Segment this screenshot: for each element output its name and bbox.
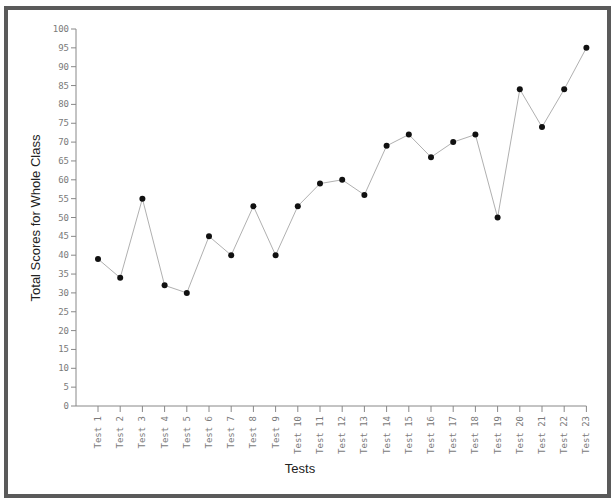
x-tick-label: Test 6 [204,416,214,449]
x-tick-label: Test 7 [226,416,236,449]
y-tick-label: 60 [58,175,69,185]
y-tick-label: 5 [64,382,69,392]
data-point [428,154,434,160]
data-point [583,45,589,51]
data-point [117,275,123,281]
x-tick-label: Test 14 [382,416,392,454]
y-tick-label: 10 [58,363,69,373]
data-point [139,196,145,202]
x-tick-label: Test 10 [293,416,303,454]
x-tick-label: Test 1 [93,416,103,449]
data-point [561,86,567,92]
y-tick-label: 65 [58,156,69,166]
data-point [317,181,323,187]
y-tick-label: 75 [58,118,69,128]
y-tick-label: 70 [58,137,69,147]
y-tick-label: 0 [64,401,69,411]
x-tick-label: Test 15 [404,416,414,454]
y-tick-label: 55 [58,194,69,204]
x-tick-label: Test 12 [337,416,347,454]
data-point [273,252,279,258]
y-tick-label: 80 [58,99,69,109]
data-point [95,256,101,262]
y-tick-label: 100 [53,24,69,34]
x-tick-label: Test 21 [537,416,547,454]
y-tick-label: 45 [58,231,69,241]
data-point [450,139,456,145]
x-tick-label: Test 9 [271,416,281,449]
data-point [162,282,168,288]
x-tick-label: Test 13 [359,416,369,454]
y-tick-label: 20 [58,326,69,336]
x-tick-label: Test 20 [515,416,525,454]
data-point [339,177,345,183]
x-axis: Test 1Test 2Test 3Test 4Test 5Test 6Test… [76,406,591,454]
x-tick-label: Test 4 [160,416,170,449]
y-tick-label: 30 [58,288,69,298]
data-point [384,143,390,149]
data-point [250,203,256,209]
y-tick-label: 40 [58,250,69,260]
x-tick-label: Test 23 [581,416,591,454]
data-point [517,86,523,92]
y-tick-label: 25 [58,307,69,317]
x-tick-label: Test 2 [115,416,125,449]
y-tick-label: 90 [58,62,69,72]
x-tick-label: Test 16 [426,416,436,454]
x-tick-label: Test 5 [182,416,192,449]
x-tick-label: Test 22 [559,416,569,454]
data-point [228,252,234,258]
data-point [184,290,190,296]
series-line [98,48,586,293]
y-tick-label: 15 [58,344,69,354]
y-axis: 0510152025303540455055606570758085909510… [53,24,76,411]
y-tick-label: 95 [58,43,69,53]
x-tick-label: Test 8 [248,416,258,449]
data-point [406,132,412,138]
x-tick-label: Test 19 [493,416,503,454]
y-tick-label: 50 [58,213,69,223]
y-tick-label: 35 [58,269,69,279]
x-tick-label: Test 3 [137,416,147,449]
data-point [495,215,501,221]
data-point [539,124,545,130]
x-tick-label: Test 11 [315,416,325,454]
x-tick-label: Test 17 [448,416,458,454]
data-series [95,45,589,296]
data-point [361,192,367,198]
line-chart: 0510152025303540455055606570758085909510… [0,0,614,500]
x-tick-label: Test 18 [470,416,480,454]
data-point [295,203,301,209]
y-axis-title: Total Scores for Whole Class [28,134,43,301]
data-point [206,233,212,239]
y-tick-label: 85 [58,81,69,91]
data-point [472,132,478,138]
x-axis-title: Tests [285,461,316,476]
